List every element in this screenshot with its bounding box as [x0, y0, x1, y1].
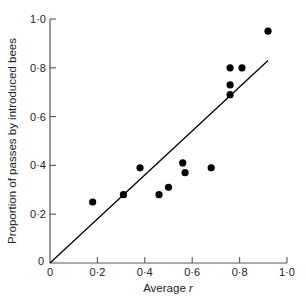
- data-point: [136, 164, 143, 171]
- y-tick-label: 0·8: [30, 62, 46, 74]
- data-point: [181, 169, 188, 176]
- x-tick-label: 0·4: [137, 266, 153, 278]
- data-point: [227, 64, 234, 71]
- x-tick-label: 0·6: [184, 266, 200, 278]
- y-tick-label: 0·4: [30, 159, 46, 171]
- ticks: 00·20·40·60·81·000·20·40·60·81·0: [30, 13, 295, 278]
- data-point: [238, 64, 245, 71]
- y-tick-label: 1·0: [30, 13, 46, 25]
- x-tick-label: 0·2: [89, 266, 105, 278]
- y-tick-label: 0: [38, 255, 44, 267]
- data-point: [227, 81, 234, 88]
- y-tick-label: 0·6: [30, 111, 46, 123]
- data-point: [120, 191, 127, 198]
- x-axis-label: Average r: [143, 282, 194, 294]
- data-point: [155, 191, 162, 198]
- data-point: [89, 198, 96, 205]
- data-point: [165, 184, 172, 191]
- y-tick-label: 0·2: [30, 208, 46, 220]
- x-tick-label: 1·0: [279, 266, 295, 278]
- data-point: [208, 164, 215, 171]
- scatter-chart: 00·20·40·60·81·000·20·40·60·81·0 Average…: [0, 0, 306, 307]
- x-tick-label: 0·8: [232, 266, 248, 278]
- data-point: [227, 91, 234, 98]
- axes: [50, 19, 287, 263]
- data-point: [179, 159, 186, 166]
- data-point: [264, 28, 271, 35]
- data-points: [89, 28, 272, 206]
- x-tick-label: 0: [47, 266, 53, 278]
- fit-line: [50, 60, 268, 263]
- y-axis-label: Proportion of passes by introduced bees: [6, 38, 18, 244]
